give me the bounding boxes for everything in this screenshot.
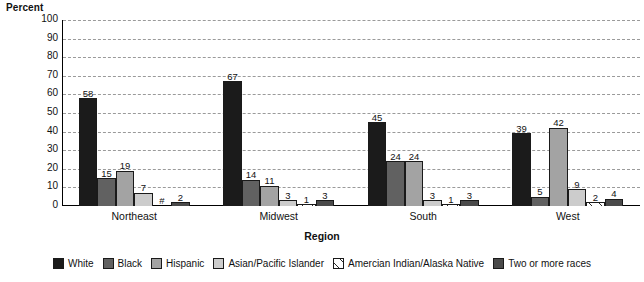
y-axis-tick-label: 100: [28, 13, 58, 24]
bar-value-label: 2: [593, 193, 598, 203]
bar-value-label: 67: [227, 72, 238, 82]
bar-value-label: 39: [516, 124, 527, 134]
legend-swatch-icon: [493, 258, 504, 269]
bar: 4: [605, 199, 624, 206]
legend-label: Black: [118, 259, 142, 269]
bar: 67: [223, 81, 242, 206]
bar-value-label: 7: [141, 183, 146, 193]
x-axis-category-labels: NortheastMidwestSouthWest: [62, 210, 640, 228]
bar-value-label: 24: [409, 152, 420, 162]
y-axis-tick-label: 60: [28, 87, 58, 98]
legend-item[interactable]: Two or more races: [493, 258, 591, 269]
x-axis-category-label: West: [556, 210, 580, 222]
bar-value-label: 1: [304, 195, 309, 205]
bar-value-label: 3: [467, 191, 472, 201]
legend-swatch-icon: [151, 258, 162, 269]
bar: 1: [297, 204, 316, 206]
bar-value-label: 42: [553, 118, 564, 128]
y-axis-tick-label: 80: [28, 50, 58, 61]
legend-label: Amercian Indian/Alaska Native: [348, 259, 484, 269]
bar: 24: [405, 161, 424, 206]
bar-value-label: 3: [430, 191, 435, 201]
legend-swatch-icon: [213, 258, 224, 269]
y-axis-tick-label: 10: [28, 180, 58, 191]
bar: 3: [316, 200, 335, 206]
bar-value-label: 5: [537, 187, 542, 197]
bar-chart: Percent 1009080706050403020100 5815197#2…: [0, 0, 644, 282]
bar: 39: [512, 133, 531, 206]
bar: 1: [442, 204, 461, 206]
legend-label: Hispanic: [166, 259, 204, 269]
bar: 42: [549, 128, 568, 206]
legend-swatch-icon: [53, 258, 64, 269]
bar-value-label: 1: [448, 195, 453, 205]
bar-group: 5815197#2: [62, 20, 207, 206]
legend-item[interactable]: Hispanic: [151, 258, 204, 269]
bar-group: 452424313: [351, 20, 496, 206]
legend-swatch-icon: [333, 258, 344, 269]
bar-value-label: 4: [611, 189, 616, 199]
bar: 2: [171, 202, 190, 206]
bar: 3: [460, 200, 479, 206]
bar-value-label: 58: [83, 89, 94, 99]
y-axis-tick-label: 20: [28, 162, 58, 173]
bar: 11: [260, 186, 279, 206]
y-axis-tick-label: 90: [28, 32, 58, 43]
bar-value-label: 2: [178, 193, 183, 203]
bar: 2: [586, 202, 605, 206]
bar-group: 671411313: [207, 20, 352, 206]
legend-item[interactable]: Asian/Pacific Islander: [213, 258, 324, 269]
legend-item[interactable]: White: [53, 258, 94, 269]
x-axis-category-label: Midwest: [259, 210, 298, 222]
y-axis-title: Percent: [6, 2, 43, 13]
bar-value-label: 9: [574, 180, 579, 190]
bar: 9: [568, 189, 587, 206]
x-axis-category-label: South: [410, 210, 437, 222]
bar-value-label: 45: [372, 113, 383, 123]
legend-item[interactable]: Amercian Indian/Alaska Native: [333, 258, 484, 269]
legend-swatch-icon: [103, 258, 114, 269]
legend-label: Asian/Pacific Islander: [228, 259, 324, 269]
legend-label: White: [68, 259, 94, 269]
bar: 3: [279, 200, 298, 206]
y-axis-tick-label: 50: [28, 106, 58, 117]
bar-value-label: 14: [246, 170, 257, 180]
bar-value-label: 19: [120, 161, 131, 171]
bar-group: 39542924: [496, 20, 641, 206]
bar-value-label: 24: [390, 152, 401, 162]
bar: 58: [79, 98, 98, 206]
y-axis-tick-label: 70: [28, 69, 58, 80]
bar: 24: [386, 161, 405, 206]
bar: 45: [368, 122, 387, 206]
y-axis-tick-label: 40: [28, 125, 58, 136]
legend-label: Two or more races: [508, 259, 591, 269]
y-axis-tick-label: 0: [28, 199, 58, 210]
bar-value-label: #: [159, 196, 164, 206]
legend-item[interactable]: Black: [103, 258, 142, 269]
bar: 7: [134, 193, 153, 206]
bar-value-label: 3: [322, 191, 327, 201]
bar-value-label: 15: [101, 169, 112, 179]
bar: 15: [97, 178, 116, 206]
bars-layer: 5815197#267141131345242431339542924: [62, 20, 640, 206]
bar: 14: [242, 180, 261, 206]
x-axis-title: Region: [0, 230, 644, 242]
chart-legend: WhiteBlackHispanicAsian/Pacific Islander…: [0, 258, 644, 269]
y-axis-tick-label: 30: [28, 143, 58, 154]
plot-wrapper: 1009080706050403020100 5815197#267141131…: [0, 16, 644, 221]
bar: 5: [531, 197, 550, 206]
bar-value-label: 11: [265, 176, 275, 186]
bar-value-label: 3: [285, 191, 290, 201]
bar: 19: [116, 171, 135, 206]
x-axis-category-label: Northeast: [111, 210, 157, 222]
bar: 3: [423, 200, 442, 206]
